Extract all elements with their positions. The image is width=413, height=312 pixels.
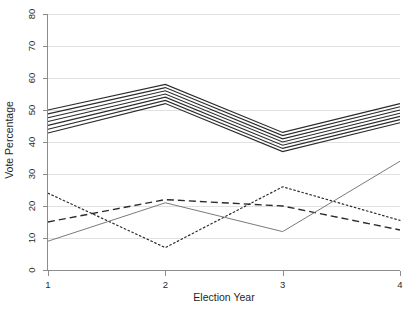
y-tick-label-text: 60 xyxy=(26,73,37,84)
y-tick-label-text: 70 xyxy=(26,41,37,52)
x-tick-label-3: 3 xyxy=(280,279,285,290)
y-tick-label-text: 20 xyxy=(26,201,37,212)
x-tick-label-4: 4 xyxy=(397,279,402,290)
x-axis-title-text: Election Year xyxy=(193,291,254,303)
y-tick-label-text: 30 xyxy=(26,169,37,180)
x-tick-mark-4 xyxy=(400,271,401,276)
y-tick-label-20: 20 xyxy=(22,200,40,212)
x-tick-mark-1 xyxy=(48,271,49,276)
plot-area xyxy=(48,14,400,270)
chart-container: Vote Percentage 01020304050607080 1234 E… xyxy=(0,0,413,312)
x-axis-spine xyxy=(48,270,400,271)
y-axis-title-text: Vote Percentage xyxy=(3,101,15,179)
y-axis-title: Vote Percentage xyxy=(2,60,16,220)
y-axis-spine xyxy=(47,14,48,270)
y-tick-label-50: 50 xyxy=(22,104,40,116)
y-tick-label-70: 70 xyxy=(22,40,40,52)
y-tick-label-text: 0 xyxy=(26,267,37,272)
x-tick-mark-2 xyxy=(165,271,166,276)
y-tick-label-80: 80 xyxy=(22,8,40,20)
plot-svg xyxy=(48,14,400,270)
x-tick-label-2: 2 xyxy=(163,279,168,290)
series-dashed-series xyxy=(48,200,400,230)
y-tick-label-text: 10 xyxy=(26,233,37,244)
x-axis-title: Election Year xyxy=(48,291,400,303)
x-tick-mark-3 xyxy=(283,271,284,276)
y-tick-label-text: 50 xyxy=(26,105,37,116)
series-band-line-1 xyxy=(48,84,400,132)
y-tick-label-0: 0 xyxy=(22,264,40,276)
y-tick-label-text: 40 xyxy=(26,137,37,148)
series-band-line-2 xyxy=(48,88,400,136)
series-band-line-5 xyxy=(48,97,400,145)
series-thin-solid-series xyxy=(48,161,400,241)
series-band-line-6 xyxy=(48,100,400,148)
y-tick-label-30: 30 xyxy=(22,168,40,180)
series-band-line-4 xyxy=(48,94,400,142)
x-tick-label-1: 1 xyxy=(45,279,50,290)
y-tick-label-text: 80 xyxy=(26,9,37,20)
y-tick-label-60: 60 xyxy=(22,72,40,84)
y-tick-label-40: 40 xyxy=(22,136,40,148)
y-tick-label-10: 10 xyxy=(22,232,40,244)
